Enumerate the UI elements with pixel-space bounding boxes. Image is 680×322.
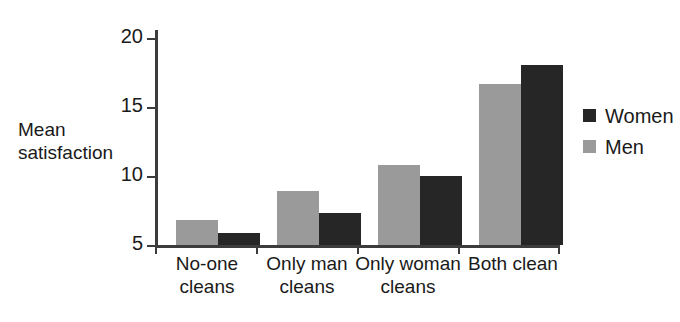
x-category-label-no-one-cleans-line2: cleans [180, 276, 235, 297]
y-tick-label-20: 20 [103, 26, 143, 46]
legend-swatch-men-icon [583, 140, 596, 153]
x-category-label-only-woman-cleans-line1: Only woman [355, 253, 461, 274]
x-category-label-only-woman-cleans-line2: cleans [381, 276, 436, 297]
bar-women-no-one-cleans [218, 233, 260, 245]
y-tick-5: 5 [147, 245, 155, 247]
y-axis-title-line1: Mean [18, 119, 66, 140]
y-tick-20: 20 [147, 38, 155, 40]
y-axis-title-line2: satisfaction [18, 142, 113, 163]
x-category-label-only-woman-cleans: Only womancleans [350, 252, 466, 298]
bar-women-only-man-cleans [319, 213, 361, 245]
bar-men-both-clean [479, 84, 521, 245]
legend-item-women: Women [583, 100, 674, 131]
bar-men-only-man-cleans [277, 191, 319, 245]
legend-item-men: Men [583, 131, 674, 162]
bar-men-only-woman-cleans [378, 165, 420, 245]
x-category-label-both-clean-line1: Both clean [468, 253, 558, 274]
y-tick-label-15: 15 [103, 95, 143, 115]
legend-label-women: Women [605, 106, 674, 126]
y-tick-label-10: 10 [103, 164, 143, 184]
x-category-label-no-one-cleans-line1: No-one [176, 253, 238, 274]
bar-men-no-one-cleans [176, 220, 218, 245]
legend: Women Men [583, 100, 674, 162]
y-tick-15: 15 [147, 107, 155, 109]
bar-chart: Meansatisfaction 5 10 15 20 [0, 0, 680, 322]
plot-area: 5 10 15 20 [155, 30, 560, 245]
y-tick-label-5: 5 [103, 233, 143, 253]
x-category-label-no-one-cleans: No-onecleans [152, 252, 262, 298]
x-category-label-only-man-cleans-line1: Only man [266, 253, 347, 274]
x-category-label-only-man-cleans: Only mancleans [251, 252, 363, 298]
legend-label-men: Men [605, 137, 644, 157]
bars-layer [155, 30, 560, 245]
legend-swatch-women-icon [583, 109, 596, 122]
y-axis-title: Meansatisfaction [18, 118, 138, 164]
bar-women-only-woman-cleans [420, 176, 462, 245]
x-category-label-only-man-cleans-line2: cleans [280, 276, 335, 297]
bar-women-both-clean [521, 65, 563, 245]
x-category-label-both-clean: Both clean [457, 252, 569, 275]
y-tick-10: 10 [147, 176, 155, 178]
